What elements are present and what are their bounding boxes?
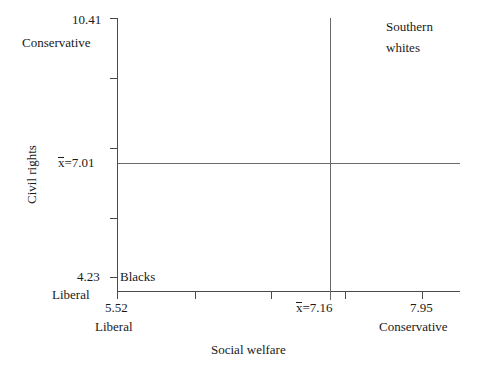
x-axis-max-value-label: 7.95 [410,301,433,314]
x-axis-tick-7-95 [422,292,423,299]
x-axis-tick-3 [271,292,272,299]
x-axis-title: Social welfare [211,343,286,356]
x-axis-min-value-label: 5.52 [105,301,128,314]
vertical-mean-line [330,18,331,300]
x-axis-min-anchor-label: Liberal [95,320,133,333]
y-axis-tick-mean [110,148,117,149]
y-axis-min-anchor-label: Liberal [52,288,90,301]
y-axis-title: Civil rights [24,145,40,204]
x-mean-value-text: =7.16 [303,300,333,315]
y-axis-max-value-label: 10.41 [72,13,101,26]
data-point-label-blacks: Blacks [120,270,155,283]
data-point-label-southern-whites-line1: Southern [386,20,433,33]
x-axis-max-anchor-label: Conservative [379,320,448,333]
y-axis-tick-4 [110,218,117,219]
horizontal-mean-line [118,163,460,164]
scatter-plot-canvas: 10.41 Conservative x=7.01 4.23 Liberal 5… [0,0,478,366]
y-axis-min-value-label: 4.23 [77,270,100,283]
y-axis-tick-2 [110,78,117,79]
y-axis-mean-label: x=7.01 [58,156,95,169]
y-axis-tick-4-23 [110,277,117,278]
x-axis-mean-label: x=7.16 [296,301,333,314]
y-axis-line [117,18,118,292]
x-axis-tick-mean [345,292,346,299]
x-axis-tick-2 [195,292,196,299]
y-axis-max-anchor-label: Conservative [22,36,91,49]
x-mean-xbar-glyph: x [296,301,303,314]
y-axis-tick-10-41 [110,18,117,19]
y-mean-xbar-glyph: x [58,156,65,169]
x-axis-line [117,291,460,292]
x-axis-tick-5-52 [117,292,118,299]
y-mean-value-text: =7.01 [65,155,95,170]
data-point-label-southern-whites-line2: whites [386,41,420,54]
